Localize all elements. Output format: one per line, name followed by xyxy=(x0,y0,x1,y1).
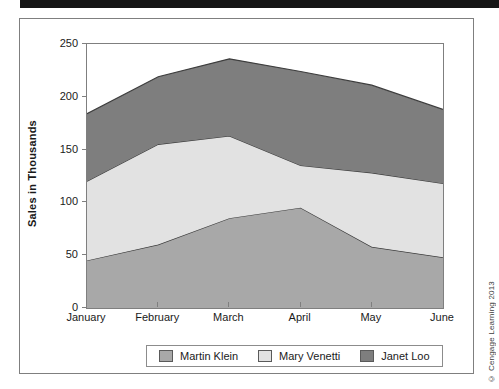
y-tick-label: 50 xyxy=(44,249,78,260)
y-tick-mark xyxy=(82,201,86,202)
y-axis-title: Sales in Thousands xyxy=(26,79,42,269)
x-tick-label: April xyxy=(265,311,335,323)
stacked-area-chart xyxy=(87,44,443,308)
x-tick-mark xyxy=(157,302,158,307)
legend-label: Martin Klein xyxy=(180,350,238,362)
plot-area xyxy=(86,43,444,309)
window-top-bar xyxy=(20,0,499,8)
copyright-note: © Cengage Learning 2013 xyxy=(487,281,496,383)
y-tick-label: 100 xyxy=(44,196,78,207)
x-tick-label: March xyxy=(193,311,263,323)
y-tick-mark xyxy=(82,149,86,150)
legend-swatch xyxy=(360,350,374,362)
legend-item-janet-loo: Janet Loo xyxy=(360,350,429,362)
y-tick-label: 200 xyxy=(44,91,78,102)
y-tick-label: 150 xyxy=(44,144,78,155)
x-tick-mark xyxy=(371,302,372,307)
x-tick-label: February xyxy=(122,311,192,323)
legend: Martin KleinMary VenettiJanet Loo xyxy=(146,345,443,367)
x-tick-mark xyxy=(228,302,229,307)
legend-swatch xyxy=(258,350,272,362)
x-tick-label: January xyxy=(51,311,121,323)
x-tick-mark xyxy=(300,302,301,307)
y-tick-mark xyxy=(82,307,86,308)
y-tick-mark xyxy=(82,43,86,44)
y-tick-label: 250 xyxy=(44,38,78,49)
x-tick-label: May xyxy=(336,311,406,323)
y-tick-mark xyxy=(82,254,86,255)
y-tick-mark xyxy=(82,96,86,97)
legend-label: Janet Loo xyxy=(381,350,429,362)
figure-page: Sales in Thousands 050100150200250 Janua… xyxy=(0,0,499,389)
x-tick-label: June xyxy=(407,311,477,323)
legend-swatch xyxy=(159,350,173,362)
legend-label: Mary Venetti xyxy=(279,350,340,362)
legend-item-martin-klein: Martin Klein xyxy=(159,350,238,362)
chart-figure: Sales in Thousands 050100150200250 Janua… xyxy=(19,18,474,374)
legend-item-mary-venetti: Mary Venetti xyxy=(258,350,340,362)
